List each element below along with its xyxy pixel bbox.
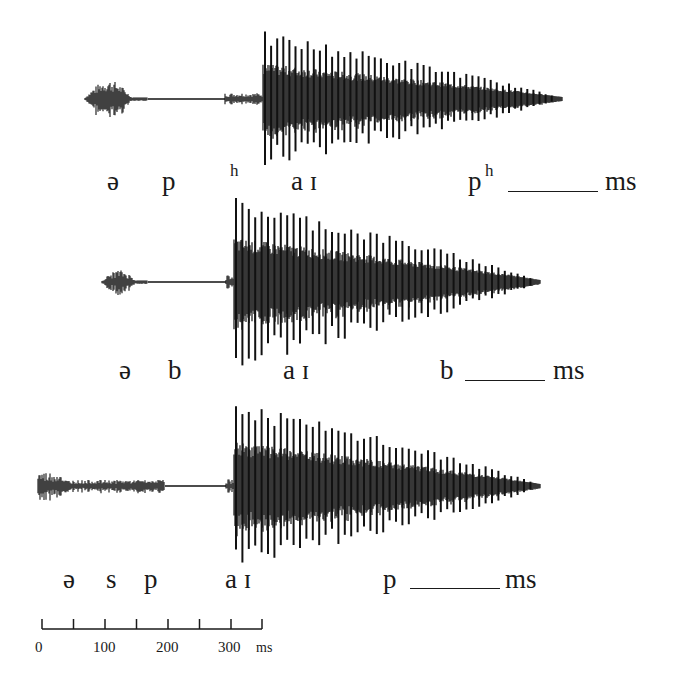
label-final: b [440,357,454,384]
label-stop: p [162,168,176,195]
label-fricative: s [106,566,117,593]
blank-line[interactable] [508,191,598,192]
label-aspiration: h [230,162,239,179]
label-stop: b [168,357,182,384]
label-unit: ms [605,168,637,195]
scale-tick-300: 300 [218,640,241,655]
scale-tick-100: 100 [93,640,116,655]
label-final: p [383,566,397,593]
label-diphthong: a ɪ [225,566,251,593]
label-diphthong: a ɪ [291,168,317,195]
label-schwa: ə [119,357,131,384]
waveforms [0,0,695,684]
label-final: p [468,168,482,195]
label-schwa: ə [63,566,75,593]
label-schwa: ə [107,168,119,195]
blank-line[interactable] [465,380,545,381]
label-diphthong: a ɪ [283,357,309,384]
scale-tick-0: 0 [35,640,43,655]
label-final-sup: h [485,162,494,179]
scale-tick-200: 200 [156,640,179,655]
label-unit: ms [553,357,585,384]
scale-unit: ms [256,641,272,655]
blank-line[interactable] [410,588,500,589]
label-unit: ms [505,566,537,593]
label-stop: p [144,566,158,593]
